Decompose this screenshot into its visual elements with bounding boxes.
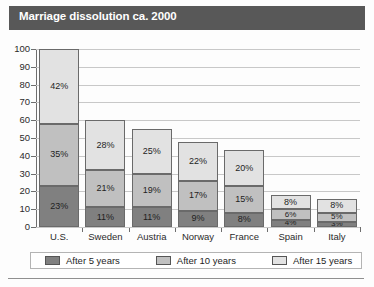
y-tick-label: 10 xyxy=(0,204,30,214)
bar-segment[interactable]: 42% xyxy=(39,49,79,124)
y-tick-mark xyxy=(31,120,36,121)
bar-value-label: 8% xyxy=(330,201,343,210)
chart-title-band: Marriage dissolution ca. 2000 xyxy=(9,6,365,30)
bar-group[interactable]: 3%5%8% xyxy=(317,49,357,227)
legend-label: After 15 years xyxy=(293,256,352,266)
x-tick-mark xyxy=(360,228,361,232)
bar-segment[interactable]: 11% xyxy=(132,207,172,227)
bar-group[interactable]: 8%15%20% xyxy=(224,49,264,227)
chart-title: Marriage dissolution ca. 2000 xyxy=(19,10,177,22)
bar-value-label: 6% xyxy=(285,211,297,219)
legend-swatch xyxy=(156,256,171,265)
bar-segment[interactable]: 23% xyxy=(39,186,79,227)
bar-segment[interactable]: 6% xyxy=(271,209,311,220)
y-tick-mark xyxy=(31,156,36,157)
y-tick-mark xyxy=(31,102,36,103)
bar-segment[interactable]: 9% xyxy=(178,211,218,227)
x-tick-label: France xyxy=(221,232,267,242)
bar-value-label: 21% xyxy=(96,184,114,193)
legend-swatch xyxy=(272,256,287,265)
legend-swatch xyxy=(45,256,60,265)
bar-value-label: 3% xyxy=(331,222,343,227)
bar-value-label: 11% xyxy=(143,213,160,222)
x-tick-label: U.S. xyxy=(36,232,82,242)
x-tick-label: Austria xyxy=(129,232,175,242)
bar-group[interactable]: 4%6%8% xyxy=(271,49,311,227)
bar-value-label: 19% xyxy=(143,186,161,195)
legend-item[interactable]: After 5 years xyxy=(45,256,120,266)
bar-group[interactable]: 11%21%28% xyxy=(85,49,125,227)
y-tick-label: 70 xyxy=(0,97,30,107)
bar-value-label: 15% xyxy=(235,195,253,204)
bar-segment[interactable]: 3% xyxy=(317,222,357,227)
bar-segment[interactable]: 22% xyxy=(178,142,218,181)
y-tick-label: 30 xyxy=(0,169,30,179)
bar-segment[interactable]: 11% xyxy=(85,207,125,227)
footer-divider xyxy=(8,278,364,279)
y-tick-mark xyxy=(31,191,36,192)
legend-label: After 10 years xyxy=(177,256,236,266)
y-tick-label: 50 xyxy=(0,133,30,143)
y-tick-mark xyxy=(31,227,36,228)
bar-value-label: 4% xyxy=(285,220,297,227)
bar-segment[interactable]: 15% xyxy=(224,186,264,213)
y-tick-mark xyxy=(31,85,36,86)
legend-item[interactable]: After 15 years xyxy=(272,256,352,266)
y-tick-label: 100 xyxy=(0,44,30,54)
bar-value-label: 11% xyxy=(97,213,114,222)
chart-figure: Marriage dissolution ca. 2000 0102030405… xyxy=(0,0,374,287)
bar-group[interactable]: 23%35%42% xyxy=(39,49,79,227)
x-tick-label: Sweden xyxy=(82,232,128,242)
bar-segment[interactable]: 8% xyxy=(271,195,311,209)
legend-label: After 5 years xyxy=(66,256,120,266)
bar-value-label: 28% xyxy=(96,141,114,150)
bar-segment[interactable]: 8% xyxy=(317,199,357,213)
bar-value-label: 25% xyxy=(143,147,161,156)
bar-segment[interactable]: 17% xyxy=(178,181,218,211)
bar-value-label: 17% xyxy=(189,191,207,200)
bar-segment[interactable]: 25% xyxy=(132,129,172,174)
y-tick-label: 40 xyxy=(0,151,30,161)
bar-group[interactable]: 9%17%22% xyxy=(178,49,218,227)
bar-segment[interactable]: 4% xyxy=(271,220,311,227)
bar-group[interactable]: 11%19%25% xyxy=(132,49,172,227)
y-tick-label: 90 xyxy=(0,62,30,72)
x-tick-label: Italy xyxy=(314,232,360,242)
bar-value-label: 9% xyxy=(191,214,204,223)
bar-segment[interactable]: 21% xyxy=(85,170,125,207)
bar-segment[interactable]: 28% xyxy=(85,120,125,170)
bar-value-label: 22% xyxy=(189,157,207,166)
y-tick-label: 20 xyxy=(0,186,30,196)
bar-segment[interactable]: 5% xyxy=(317,213,357,222)
bar-value-label: 23% xyxy=(50,202,68,211)
bar-segment[interactable]: 8% xyxy=(224,213,264,227)
y-tick-mark xyxy=(31,49,36,50)
bar-value-label: 8% xyxy=(284,198,297,207)
x-tick-label: Norway xyxy=(175,232,221,242)
y-tick-mark xyxy=(31,209,36,210)
bar-value-label: 5% xyxy=(331,213,343,221)
y-tick-mark xyxy=(31,174,36,175)
bar-value-label: 42% xyxy=(50,82,68,91)
y-tick-label: 60 xyxy=(0,115,30,125)
y-tick-mark xyxy=(31,67,36,68)
bar-value-label: 20% xyxy=(235,164,253,173)
legend-item[interactable]: After 10 years xyxy=(156,256,236,266)
bar-segment[interactable]: 20% xyxy=(224,150,264,186)
bar-value-label: 35% xyxy=(50,150,68,159)
bar-segment[interactable]: 19% xyxy=(132,174,172,208)
y-tick-label: 0 xyxy=(0,222,30,232)
chart-legend: After 5 yearsAfter 10 yearsAfter 15 year… xyxy=(30,252,362,269)
x-tick-label: Spain xyxy=(267,232,313,242)
bar-segment[interactable]: 35% xyxy=(39,124,79,186)
bar-value-label: 8% xyxy=(238,215,251,224)
y-tick-label: 80 xyxy=(0,80,30,90)
gridline xyxy=(36,227,360,228)
y-tick-mark xyxy=(31,138,36,139)
